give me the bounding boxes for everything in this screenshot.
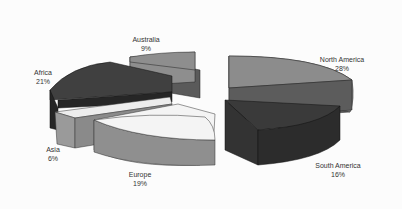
- label-name: Asia: [46, 145, 60, 154]
- label-name: Africa: [34, 68, 52, 77]
- label-percent: 16%: [315, 170, 361, 179]
- label-europe: Europe 19%: [129, 170, 152, 188]
- slice-south-america: [225, 100, 340, 165]
- label-south-america: South America 16%: [315, 161, 361, 179]
- label-name: South America: [315, 161, 361, 170]
- label-name: North America: [320, 55, 364, 64]
- label-asia: Asia 6%: [46, 145, 60, 163]
- label-percent: 21%: [34, 77, 52, 86]
- label-north-america: North America 28%: [320, 55, 364, 73]
- label-africa: Africa 21%: [34, 68, 52, 86]
- label-percent: 6%: [46, 154, 60, 163]
- label-name: Europe: [129, 170, 152, 179]
- label-australia: Australia 9%: [132, 35, 159, 53]
- pie-chart: North America 28% South America 16% Euro…: [0, 0, 402, 209]
- label-percent: 28%: [320, 64, 364, 73]
- label-percent: 9%: [132, 44, 159, 53]
- label-percent: 19%: [129, 179, 152, 188]
- label-name: Australia: [132, 35, 159, 44]
